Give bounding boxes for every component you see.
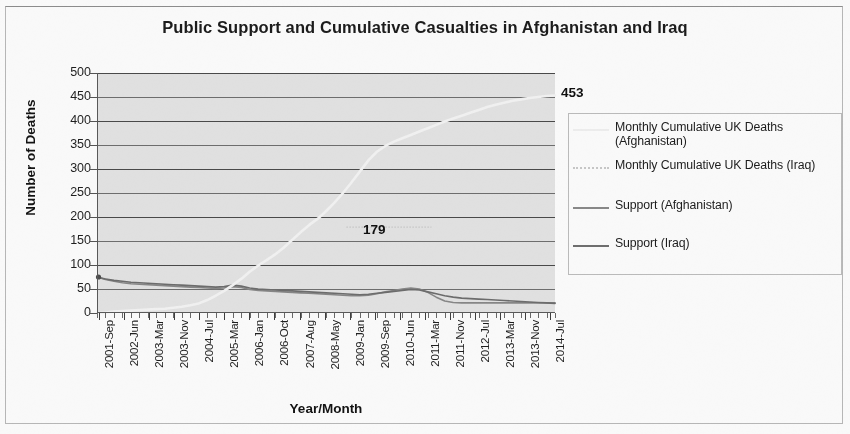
x-axis-major-tick [174, 313, 175, 320]
x-axis-tick-label: 2013-Nov [529, 320, 541, 368]
legend-item[interactable]: Monthly Cumulative UK Deaths (Iraq) [573, 158, 839, 174]
x-axis-tick-label: 2011-Mar [429, 320, 441, 367]
x-axis-tick [547, 313, 548, 318]
x-axis-major-tick [500, 313, 501, 320]
x-axis-tick [538, 313, 539, 318]
x-axis-tick [521, 313, 522, 318]
x-axis-tick [114, 313, 115, 318]
x-axis-major-tick [124, 313, 125, 320]
x-axis-tick [445, 313, 446, 318]
x-axis-tick [504, 313, 505, 318]
x-axis-tick-label: 2001-Sep [103, 320, 115, 368]
series-lines [97, 73, 555, 313]
x-axis-major-tick [199, 313, 200, 320]
plot-area [97, 73, 555, 313]
x-axis-tick-label: 2008-May [329, 320, 341, 370]
x-axis-tick [165, 313, 166, 318]
y-axis-tick [89, 145, 97, 146]
x-axis-tick-label: 2013-Mar [504, 320, 516, 368]
x-axis-tick [377, 313, 378, 318]
x-axis-tick [258, 313, 259, 318]
legend-item[interactable]: Support (Afghanistan) [573, 198, 839, 214]
x-axis-major-tick [274, 313, 275, 320]
x-axis-tick [334, 313, 335, 318]
x-axis-tick-label: 2010-Jun [404, 320, 416, 366]
x-axis-major-tick [300, 313, 301, 320]
x-axis-tick [428, 313, 429, 318]
y-axis-tick [89, 313, 97, 314]
x-axis-tick [513, 313, 514, 318]
legend-item-label: Support (Iraq) [615, 236, 689, 250]
y-axis-tick-label: 150 [51, 233, 91, 247]
x-axis-tick [351, 313, 352, 318]
x-axis-tick [267, 313, 268, 318]
x-axis-major-tick [224, 313, 225, 320]
y-axis-tick-label: 200 [51, 209, 91, 223]
x-axis-tick [105, 313, 106, 318]
legend-swatch-icon [573, 162, 609, 174]
x-axis-tick [207, 313, 208, 318]
legend-item-label: Support (Afghanistan) [615, 198, 733, 212]
x-axis-major-tick [475, 313, 476, 320]
x-axis-tick-label: 2006-Jan [253, 320, 265, 366]
x-axis-ticks [97, 313, 555, 320]
x-axis-major-tick [400, 313, 401, 320]
x-axis-major-tick [149, 313, 150, 320]
y-axis-tick-label: 350 [51, 137, 91, 151]
x-axis-tick [301, 313, 302, 318]
annotation-afghanistan-total: 453 [561, 85, 584, 100]
y-axis-tick-label: 300 [51, 161, 91, 175]
y-axis-tick-label: 400 [51, 113, 91, 127]
x-axis-major-tick [450, 313, 451, 320]
y-axis-tick-labels: 500450400350300250200150100500 [46, 73, 91, 313]
y-axis-title: Number of Deaths [23, 68, 38, 248]
y-axis-tick [89, 97, 97, 98]
x-axis-tick-label: 2003-Nov [178, 320, 190, 368]
y-axis-tick [89, 193, 97, 194]
x-axis-tick [360, 313, 361, 318]
x-axis-tick [487, 313, 488, 318]
x-axis-tick [479, 313, 480, 318]
y-axis-tick [89, 169, 97, 170]
y-axis-tick [89, 121, 97, 122]
x-axis-tick [368, 313, 369, 318]
x-axis-tick [411, 313, 412, 318]
series-start-marker [96, 274, 101, 279]
y-axis-tick-label: 250 [51, 185, 91, 199]
y-axis-tick-label: 450 [51, 89, 91, 103]
y-axis-tick-label: 0 [51, 305, 91, 319]
x-axis-tick [394, 313, 395, 318]
x-axis-major-tick [550, 313, 551, 320]
x-axis-tick [97, 313, 98, 318]
x-axis-tick [292, 313, 293, 318]
legend-item[interactable]: Support (Iraq) [573, 236, 839, 252]
x-axis-tick [309, 313, 310, 318]
x-axis-tick-label: 2014-Jul [554, 320, 566, 363]
x-axis-tick-label: 2004-Jul [203, 320, 215, 363]
x-axis-major-tick [525, 313, 526, 320]
legend-swatch-icon [573, 240, 609, 252]
x-axis-tick-label: 2002-Jun [128, 320, 140, 366]
x-axis-tick [182, 313, 183, 318]
annotation-iraq-total: 179 [363, 222, 386, 237]
x-axis-tick-label: 2009-Jan [354, 320, 366, 366]
chart-legend: Monthly Cumulative UK Deaths (Afghanista… [568, 113, 842, 275]
x-axis-tick-label: 2003-Mar [153, 320, 165, 368]
y-axis-tick-label: 100 [51, 257, 91, 271]
x-axis-tick [402, 313, 403, 318]
series-line [97, 96, 555, 313]
x-axis-tick [419, 313, 420, 318]
x-axis-tick [233, 313, 234, 318]
x-axis-major-tick [425, 313, 426, 320]
x-axis-tick [555, 313, 556, 318]
x-axis-tick [462, 313, 463, 318]
x-axis-tick [156, 313, 157, 318]
x-axis-major-tick [249, 313, 250, 320]
x-axis-tick [453, 313, 454, 318]
y-axis-tick [89, 289, 97, 290]
x-axis-major-tick [99, 313, 100, 320]
legend-item[interactable]: Monthly Cumulative UK Deaths (Afghanista… [573, 120, 839, 148]
x-axis-major-tick [325, 313, 326, 320]
y-axis-tick [89, 265, 97, 266]
legend-swatch-icon [573, 202, 609, 214]
